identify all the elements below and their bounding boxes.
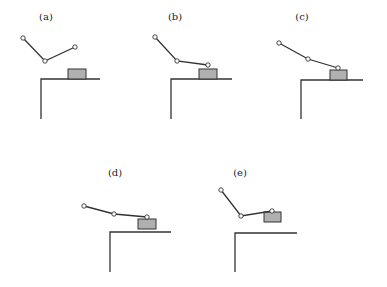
joint-circle [153,35,157,39]
joint-circle [206,63,210,67]
panel-label: (b) [168,11,182,22]
table-edge [171,79,232,119]
joint-circle [270,209,274,213]
arm-links [23,38,75,61]
table-edge [41,79,100,119]
joint-circle [239,214,243,218]
joint-circle [82,204,86,208]
arm-links [155,37,208,65]
joint-circle [306,57,310,61]
object-block [199,69,217,79]
panel-label: (c) [295,11,309,22]
panel-label: (e) [233,167,247,178]
panel-d: (d) [82,167,171,272]
object-block [138,219,156,229]
table-edge [301,80,363,119]
joint-circle [336,66,340,70]
table-edge [110,232,171,272]
panel-a: (a) [21,11,100,119]
panel-label: (a) [39,11,53,22]
panel-b: (b) [153,11,232,119]
arm-links [221,190,272,216]
joint-circle [145,215,149,219]
joint-circle [73,45,77,49]
panel-c: (c) [277,11,363,119]
object-block [68,69,86,79]
object-block [330,70,347,80]
joint-circle [219,188,223,192]
joint-circle [175,59,179,63]
joint-circle [277,41,281,45]
arm-links [279,43,338,68]
table-edge [235,233,297,272]
panel-label: (d) [108,167,122,178]
joint-circle [21,36,25,40]
joint-circle [112,212,116,216]
joint-circle [43,59,47,63]
robot-arm-figure: (a) (b) (c) (d) (e) [0,0,387,287]
panel-e: (e) [219,167,297,272]
